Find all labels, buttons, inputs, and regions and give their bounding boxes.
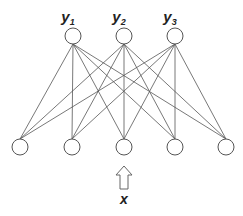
input-arrow-icon [116, 166, 132, 189]
input-node [116, 139, 132, 155]
output-node [167, 28, 183, 44]
output-label: y1 [60, 8, 74, 27]
input-node [12, 139, 28, 155]
input-label: x [119, 191, 129, 207]
edge [20, 44, 175, 139]
edge [175, 44, 226, 139]
connections [20, 44, 226, 139]
input-node [167, 139, 183, 155]
labels: y1y2y3 [60, 8, 176, 27]
output-label: y3 [162, 8, 176, 27]
neural-network-diagram: y1y2y3 x [0, 0, 243, 216]
output-node [116, 28, 132, 44]
input-node [218, 139, 234, 155]
output-label: y2 [111, 8, 125, 27]
edge [20, 44, 73, 139]
output-node [65, 28, 81, 44]
input-node [64, 139, 80, 155]
